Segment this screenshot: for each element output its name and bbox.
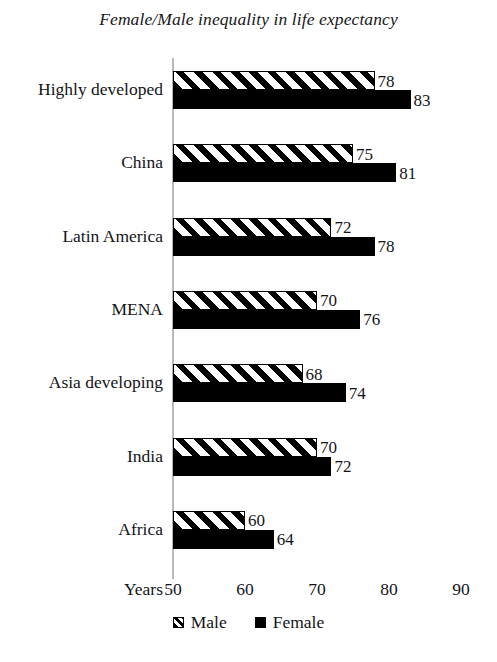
male-bar[interactable] [173,144,353,163]
legend-item[interactable]: Male [173,614,227,632]
male-bar-row: 70 [173,291,317,310]
filled-square-icon [255,617,266,628]
bar-group: India7072 [0,436,497,478]
legend-label: Female [273,614,325,632]
chart-legend: MaleFemale [0,614,497,632]
x-tick-label: 90 [452,581,470,599]
x-tick-label: 60 [236,581,254,599]
male-bar[interactable] [173,438,317,457]
bar-group: Highly developed7883 [0,69,497,111]
male-bar-row: 68 [173,364,303,383]
female-bar-row: 83 [173,90,411,109]
legend-item[interactable]: Female [255,614,325,632]
female-bar-value: 78 [378,238,395,255]
x-tick-label: 70 [308,581,326,599]
category-label: China [121,155,163,173]
male-bar-row: 70 [173,438,317,457]
x-axis: Years 5060708090 [0,581,497,607]
x-tick-label: 50 [164,581,182,599]
category-label: Asia developing [49,374,163,392]
male-bar-row: 60 [173,511,245,530]
female-bar-row: 81 [173,163,396,182]
female-bar[interactable] [173,383,346,402]
x-axis-title: Years [124,581,163,599]
male-bar-row: 75 [173,144,353,163]
bar-group: Asia developing6874 [0,362,497,404]
bar-group: Latin America7278 [0,216,497,258]
category-label: Africa [118,521,163,539]
male-bar-value: 70 [320,439,337,456]
female-bar-row: 78 [173,237,375,256]
female-bar[interactable] [173,310,360,329]
chart-container: Female/Male inequality in life expectanc… [0,0,497,662]
x-tick-label: 80 [380,581,398,599]
male-bar-row: 78 [173,71,375,90]
female-bar-row: 76 [173,310,360,329]
female-bar-value: 72 [334,458,351,475]
male-bar[interactable] [173,364,303,383]
female-bar-value: 64 [277,531,294,548]
category-label: Latin America [62,228,163,246]
female-bar-row: 64 [173,530,274,549]
female-bar-value: 83 [414,91,431,108]
male-bar-value: 60 [248,512,265,529]
category-label: Highly developed [38,81,163,99]
male-bar-value: 72 [334,219,351,236]
female-bar[interactable] [173,163,396,182]
female-bar-row: 72 [173,457,331,476]
female-bar[interactable] [173,90,411,109]
category-label: MENA [111,301,163,319]
bar-group: Africa6064 [0,509,497,551]
male-bar-row: 72 [173,218,331,237]
female-bar[interactable] [173,457,331,476]
plot-area: Highly developed7883China7581Latin Ameri… [0,0,497,662]
male-bar[interactable] [173,218,331,237]
male-bar-value: 70 [320,292,337,309]
male-bar-value: 78 [378,72,395,89]
female-bar[interactable] [173,530,274,549]
female-bar-value: 76 [363,311,380,328]
category-label: India [127,448,163,466]
male-bar[interactable] [173,511,245,530]
male-bar-value: 68 [306,365,323,382]
bar-group: MENA7076 [0,289,497,331]
male-bar-value: 75 [356,145,373,162]
female-bar-value: 81 [399,164,416,181]
legend-label: Male [191,614,227,632]
female-bar-row: 74 [173,383,346,402]
male-bar[interactable] [173,291,317,310]
male-bar[interactable] [173,71,375,90]
hatched-square-icon [173,617,184,628]
bar-group: China7581 [0,142,497,184]
female-bar[interactable] [173,237,375,256]
female-bar-value: 74 [349,384,366,401]
